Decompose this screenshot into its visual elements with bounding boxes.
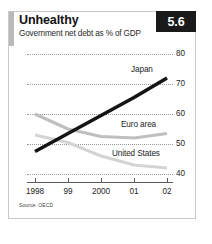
x-axis-tick-1998: 1998 [26, 187, 44, 196]
chart-header: Unhealthy Government net debt as % of GD… [9, 12, 195, 46]
x-axis-tick-02: 02 [162, 187, 171, 196]
plot-area: 80 70 60 50 40 Japan Euro area United St… [9, 46, 195, 219]
chart-subtitle: Government net debt as % of GDP [19, 29, 141, 38]
x-axis-tick-mark-2000 [101, 178, 102, 183]
x-axis-tick-2000: 2000 [92, 187, 110, 196]
page-title: Unhealthy [19, 13, 79, 27]
chart-number-badge: 5.6 [156, 11, 196, 32]
x-axis-line [27, 182, 173, 183]
source-note: Source: OECD [19, 202, 53, 208]
x-axis-tick-mark-99 [68, 178, 69, 183]
x-axis-tick-01: 01 [129, 187, 138, 196]
x-axis-tick-mark-1998 [35, 178, 36, 183]
series-label-united-states: United States [112, 149, 160, 158]
x-axis-tick-99: 99 [63, 187, 72, 196]
title-accent-bar [9, 12, 14, 46]
x-axis-tick-mark-01 [134, 178, 135, 183]
series-label-euro-area: Euro area [121, 120, 156, 129]
chart-figure: Unhealthy Government net debt as % of GD… [8, 11, 196, 219]
x-axis-tick-mark-02 [167, 178, 168, 183]
series-label-japan: Japan [131, 65, 153, 74]
series-line-japan [35, 78, 167, 152]
